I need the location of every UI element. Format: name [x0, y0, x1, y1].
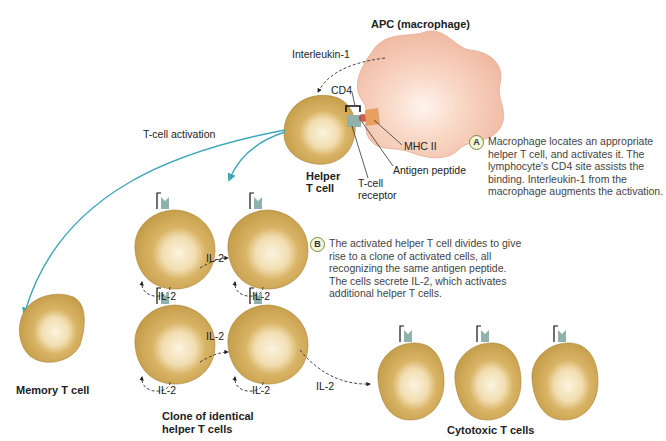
activation-label: T-cell activation — [143, 128, 215, 140]
clone-label-1: Clone of identical — [162, 410, 254, 422]
interleukin1-label: Interleukin-1 — [292, 48, 350, 60]
badge-b: B — [310, 237, 325, 252]
clone-cell-2 — [228, 193, 308, 289]
il2-label-1: IL-2 — [206, 252, 224, 264]
memory-label: Memory T cell — [16, 384, 89, 396]
clone-cell-1 — [135, 193, 215, 289]
cytotoxic-cell-1 — [378, 326, 444, 420]
il2-label-7: IL-2 — [316, 380, 334, 392]
note-a: Macrophage locates an appropriate helper… — [488, 135, 663, 198]
clone-cell-3 — [135, 288, 215, 384]
il2-label-3: IL-2 — [252, 290, 270, 302]
il2-label-4: IL-2 — [206, 330, 224, 342]
apc-title: APC (macrophage) — [371, 18, 470, 30]
clone-cell-4 — [228, 288, 308, 384]
activation-arrow-clone — [230, 132, 285, 178]
memory-t-cell — [19, 294, 84, 362]
il2-label-2: IL-2 — [158, 290, 176, 302]
tcr-label-2: receptor — [358, 189, 397, 201]
cd4-label: CD4 — [331, 84, 352, 96]
cytotoxic-cells — [378, 326, 598, 420]
helper-t-cell — [284, 95, 355, 164]
diagram-canvas — [0, 0, 666, 441]
cytotoxic-cell-2 — [455, 326, 521, 420]
clone-label-2: helper T cells — [162, 423, 232, 435]
note-b: The activated helper T cell divides to g… — [329, 237, 521, 300]
cytotoxic-cell-3 — [532, 326, 598, 420]
clone-cells — [135, 193, 308, 384]
cytotoxic-label: Cytotoxic T cells — [447, 424, 534, 436]
mhc2-label: MHC II — [404, 140, 437, 152]
tcr-label-1: T-cell — [358, 177, 383, 189]
il2-label-5: IL-2 — [158, 384, 176, 396]
helper-label-2: T cell — [306, 182, 334, 194]
helper-label-1: Helper — [306, 170, 340, 182]
il2-label-6: IL-2 — [252, 384, 270, 396]
badge-a: A — [469, 135, 484, 150]
antigen-label: Antigen peptide — [393, 164, 466, 176]
